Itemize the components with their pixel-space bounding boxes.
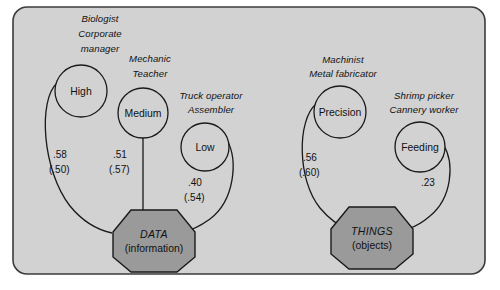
node-medium-label: Medium [125, 108, 162, 119]
construct-data-octagon [113, 210, 195, 272]
coefficient-low-alt: (.54) [184, 192, 205, 203]
construct-data-title: DATA [140, 228, 168, 240]
figure-canvas: DATA (information) High Biologist Corpor… [0, 0, 500, 290]
coefficient-precision-alt: (.60) [299, 167, 320, 178]
construct-things-octagon [331, 207, 413, 269]
construct-things-subtitle: (objects) [352, 240, 392, 251]
coefficient-high-alt: (.50) [49, 164, 70, 175]
coefficient-feeding: .23 [421, 177, 435, 188]
path-diagram: DATA (information) High Biologist Corpor… [0, 0, 500, 290]
node-precision-occupation-line-1: Machinist [322, 54, 364, 65]
node-precision-occupation-line-2: Metal fabricator [309, 68, 377, 79]
node-low-label: Low [195, 142, 215, 153]
construct-things-title: THINGS [351, 225, 393, 237]
coefficient-medium-alt: (.57) [109, 164, 130, 175]
node-feeding-occupation-line-2: Cannery worker [389, 104, 459, 115]
node-feeding-occupation-line-1: Shrimp picker [394, 90, 455, 101]
node-low-occupation-line-2: Assembler [187, 104, 235, 115]
node-medium-occupation-line-2: Teacher [132, 68, 168, 79]
construct-data-subtitle: (information) [125, 243, 183, 254]
node-precision-label: Precision [319, 107, 362, 118]
coefficient-high: .58 [53, 149, 67, 160]
node-high-occupation-line-3: manager [81, 43, 120, 54]
coefficient-precision: .56 [303, 152, 317, 163]
coefficient-medium: .51 [113, 149, 127, 160]
node-high-occupation-line-1: Biologist [81, 13, 118, 24]
node-high-occupation-line-2: Corporate [78, 28, 122, 39]
node-low-occupation-line-1: Truck operator [179, 90, 243, 101]
node-feeding-label: Feeding [401, 142, 439, 153]
coefficient-low: .40 [188, 177, 202, 188]
node-medium-occupation-line-1: Mechanic [129, 53, 171, 64]
node-high-label: High [70, 86, 92, 97]
